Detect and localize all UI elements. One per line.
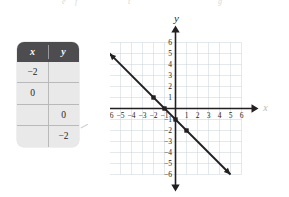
x-tick-label: −4 [128,111,136,120]
data-point-marker [173,117,177,121]
data-point-marker [151,95,155,99]
y-tick-label: −6 [164,170,172,179]
x-tick-label: −6 [110,111,114,120]
cell-y-3[interactable]: −2 [48,126,79,147]
cell-y-0[interactable] [48,62,79,82]
table-body: −2 0 0 −2 [17,62,79,147]
cell-y-2[interactable]: 0 [48,105,79,125]
header-column-divider [48,45,49,59]
data-point-marker [162,106,166,110]
table-column-divider [48,62,49,147]
y-tick-label: 4 [168,60,172,69]
graph-svg: −6−5−4−3−2−1123456654321−1−2−3−4−5−6 yx [110,4,289,194]
cell-y-1[interactable] [48,83,79,103]
y-axis-label: y [173,12,179,24]
y-tick-label: 1 [168,93,172,102]
pencil-stray-mark [78,119,88,129]
x-axis-arrow-right [252,104,259,112]
x-tick-label: 3 [207,111,211,120]
y-tick-label: 2 [168,82,172,91]
x-tick-label: 4 [218,111,222,120]
y-axis-arrow-down [171,185,179,192]
table-header-row: x y [17,42,79,62]
x-tick-label: 1 [185,111,189,120]
cell-x-0[interactable]: −2 [17,62,48,82]
y-tick-label: −1 [164,115,172,124]
x-tick-label: 5 [229,111,233,120]
axes [110,26,259,192]
y-tick-label: 5 [168,49,172,58]
x-tick-label: 2 [196,111,200,120]
y-tick-label: 6 [168,38,172,47]
x-tick-label: −3 [139,111,147,120]
x-tick-label: −5 [117,111,125,120]
y-tick-label: −2 [164,126,172,135]
x-axis-label: x [262,102,268,113]
y-tick-label: 3 [168,71,172,80]
data-point-marker [184,128,188,132]
xy-value-table: x y −2 0 0 −2 [17,42,79,147]
y-tick-label: −4 [164,148,172,157]
artifact-fragment-1: f [75,0,78,6]
cell-x-1[interactable]: 0 [17,83,48,103]
axis-name-labels: yx [173,12,268,114]
y-axis-arrow-up [171,26,179,33]
artifact-fragment-0: e [62,0,66,6]
table-header-y: y [48,42,79,62]
y-tick-label: −3 [164,137,172,146]
cell-x-2[interactable] [17,105,48,125]
table-header-x: x [17,42,48,62]
coordinate-plane-graph: −6−5−4−3−2−1123456654321−1−2−3−4−5−6 yx [110,4,289,194]
x-tick-label: −2 [150,111,158,120]
x-tick-label: 6 [240,111,244,120]
cell-x-3[interactable] [17,126,48,147]
y-tick-label: −5 [164,159,172,168]
